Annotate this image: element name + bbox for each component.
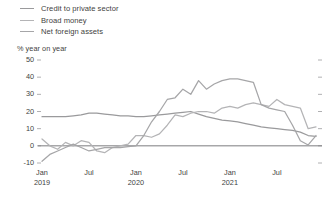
legend-item-credit-to-private-sector: Credit to private sector [20, 3, 320, 15]
legend-item-broad-money: Broad money [20, 15, 320, 27]
x-tick-label-year: 2021 [210, 178, 250, 188]
x-tick-label: Jan2019 [22, 168, 62, 187]
x-tick-label: Jul [163, 168, 203, 178]
series-line-net-foreign-assets [42, 79, 316, 161]
y-tick-label: 20 [12, 107, 34, 116]
y-tick-label: 30 [12, 89, 34, 98]
legend-label-credit-to-private-sector: Credit to private sector [41, 4, 119, 13]
y-tick-label: -10 [12, 158, 34, 167]
x-tick-label-month: Jan [210, 168, 250, 178]
x-tick-label: Jul [257, 168, 297, 178]
x-tick-label-month: Jul [163, 168, 203, 178]
x-tick-label: Jan2021 [210, 168, 250, 187]
y-tick-label: 50 [12, 55, 34, 64]
x-tick-label-month: Jul [69, 168, 109, 178]
y-axis-ticks-right [318, 60, 322, 163]
series-line-broad-money [42, 99, 316, 152]
x-tick-label-year: 2019 [22, 178, 62, 188]
legend-swatch-nfa-icon [20, 31, 34, 32]
y-axis-unit-label: % year on year [17, 44, 67, 53]
y-tick-label: 40 [12, 72, 34, 81]
legend-swatch-broad-money-icon [20, 20, 34, 21]
y-tick-label: 0 [12, 141, 34, 150]
legend-label-broad-money: Broad money [41, 16, 87, 25]
x-tick-label-year: 2020 [116, 178, 156, 188]
chart-figure: Credit to private sector Broad money Net… [0, 0, 336, 203]
x-tick-label-month: Jan [22, 168, 62, 178]
y-tick-label: 10 [12, 124, 34, 133]
legend-item-net-foreign-assets: Net foreign assets [20, 26, 320, 38]
x-tick-label-month: Jan [116, 168, 156, 178]
x-tick-label: Jul [69, 168, 109, 178]
chart-legend: Credit to private sector Broad money Net… [20, 3, 320, 38]
x-tick-label-month: Jul [257, 168, 297, 178]
y-axis-ticks-left [37, 60, 41, 163]
legend-label-net-foreign-assets: Net foreign assets [41, 27, 103, 36]
data-series-layer [42, 79, 316, 161]
legend-swatch-credit-icon [20, 8, 34, 9]
x-tick-label: Jan2020 [116, 168, 156, 187]
